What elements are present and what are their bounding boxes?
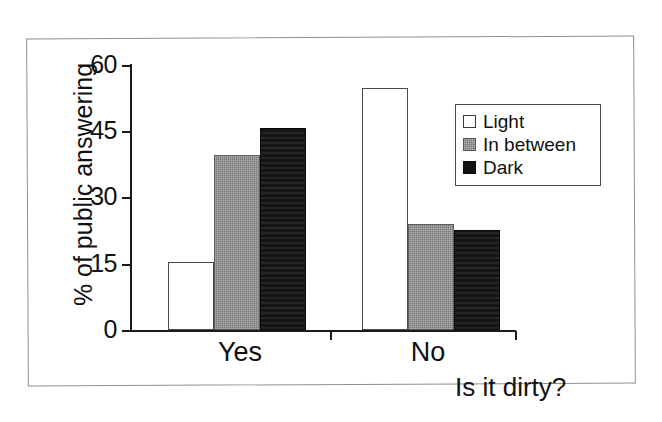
legend-label-in-between: In between [483, 135, 576, 154]
y-axis-line [130, 64, 132, 332]
y-tick-mark-15 [122, 264, 130, 266]
legend-label-light: Light [483, 112, 524, 131]
x-category-label-yes: Yes [190, 337, 290, 368]
y-tick-mark-45 [122, 131, 130, 133]
y-tick-mark-30 [122, 197, 130, 199]
legend-item-dark: Dark [463, 156, 593, 179]
legend-item-light: Light [463, 110, 593, 133]
bar-yes-dark [260, 128, 306, 330]
dark-swatch-icon [463, 161, 476, 174]
chart-legend: Light In between Dark [455, 104, 601, 186]
y-tick-mark-0 [122, 330, 130, 332]
y-axis-title: % of public answering [69, 40, 98, 330]
chart-plot-area: 60 45 30 15 0 % of public answering Yes … [0, 0, 662, 422]
x-axis-line [130, 330, 516, 332]
legend-item-in-between: In between [463, 133, 593, 156]
bar-yes-in-between [214, 155, 260, 330]
x-axis-title: Is it dirty? [455, 372, 566, 403]
x-tick-mark-group-sep [330, 331, 332, 340]
x-category-label-no: No [378, 337, 478, 368]
bar-no-light [362, 88, 408, 330]
bar-no-in-between [408, 224, 454, 330]
legend-label-dark: Dark [483, 158, 523, 177]
y-tick-mark-60 [122, 65, 130, 67]
bar-yes-light [168, 262, 214, 330]
x-tick-mark-end [515, 331, 517, 340]
bar-no-dark [454, 230, 500, 330]
mid-gray-swatch-icon [463, 138, 476, 151]
light-swatch-icon [463, 115, 476, 128]
